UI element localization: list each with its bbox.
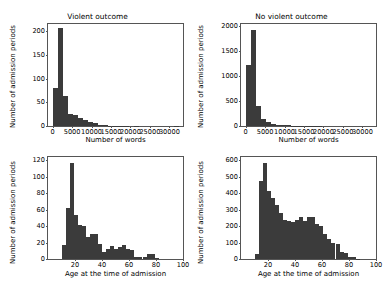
panel-violent-words: Violent outcome Number of admission peri…: [0, 12, 195, 146]
y-tick-mark: [46, 259, 48, 260]
x-tick-label: 25000: [332, 129, 353, 136]
y-tick-mark: [239, 177, 241, 178]
y-tick-mark: [46, 31, 48, 32]
x-tick-label: 20000: [120, 129, 141, 136]
figure-canvas: Violent outcome Number of admission peri…: [0, 0, 389, 292]
x-tick-mark: [349, 259, 350, 261]
y-tick-label: 200: [32, 28, 45, 35]
x-tick-label: 15000: [101, 129, 122, 136]
y-tick-label: 100: [32, 173, 45, 180]
y-tick-mark: [239, 193, 241, 194]
x-tick-label: 0: [244, 129, 248, 136]
x-tick-mark: [129, 259, 130, 261]
x-tick-mark: [75, 259, 76, 261]
y-tick-label: 100: [32, 75, 45, 82]
y-tick-label: 0: [41, 123, 45, 130]
y-tick-label: 300: [225, 206, 238, 213]
y-tick-label: 0: [234, 123, 238, 130]
xlabel-violent-age: Age at the time of admission: [47, 270, 184, 279]
x-tick-mark: [323, 126, 324, 128]
plot-title-nonviolent-words: No violent outcome: [194, 12, 389, 21]
panel-nonviolent-words: No violent outcome Number of admission p…: [194, 12, 389, 146]
x-tick-mark: [376, 259, 377, 261]
x-tick-label: 80: [345, 262, 353, 269]
x-tick-mark: [102, 259, 103, 261]
y-tick-mark: [239, 210, 241, 211]
x-tick-label: 60: [318, 262, 326, 269]
y-tick-label: 60: [37, 206, 45, 213]
x-tick-mark: [265, 126, 266, 128]
y-tick-label: 600: [225, 157, 238, 164]
y-tick-mark: [239, 101, 241, 102]
x-tick-label: 80: [152, 262, 160, 269]
axes-violent-words: 0501001502000500010000150002000025000300…: [47, 23, 184, 127]
plot-title-violent-words: Violent outcome: [0, 12, 195, 21]
x-tick-label: 30000: [159, 129, 180, 136]
x-tick-mark: [246, 126, 247, 128]
y-tick-label: 50: [37, 99, 45, 106]
y-tick-label: 2000: [221, 23, 238, 30]
x-tick-label: 10000: [81, 129, 102, 136]
y-tick-mark: [239, 51, 241, 52]
x-tick-label: 25000: [139, 129, 160, 136]
y-tick-label: 40: [37, 223, 45, 230]
y-tick-mark: [239, 76, 241, 77]
x-tick-label: 0: [51, 129, 55, 136]
bars-nonviolent-age: [241, 157, 376, 259]
x-tick-mark: [304, 126, 305, 128]
panel-nonviolent-age: Number of admission periods 010020030040…: [194, 152, 389, 292]
x-tick-mark: [130, 126, 131, 128]
y-tick-label: 1000: [221, 73, 238, 80]
x-tick-mark: [362, 126, 363, 128]
y-tick-label: 0: [234, 256, 238, 263]
y-tick-mark: [239, 259, 241, 260]
y-tick-mark: [46, 126, 48, 127]
axes-violent-age: 02040608010012020406080100: [47, 156, 184, 260]
y-tick-mark: [46, 160, 48, 161]
x-tick-label: 5000: [257, 129, 274, 136]
x-tick-mark: [150, 126, 151, 128]
y-tick-mark: [239, 160, 241, 161]
xlabel-violent-words: Number of words: [47, 136, 184, 145]
y-tick-label: 0: [41, 256, 45, 263]
y-tick-label: 200: [225, 223, 238, 230]
x-tick-label: 30000: [352, 129, 373, 136]
y-tick-mark: [46, 243, 48, 244]
x-tick-label: 60: [125, 262, 133, 269]
y-tick-label: 20: [37, 239, 45, 246]
y-tick-mark: [239, 26, 241, 27]
y-tick-label: 120: [32, 157, 45, 164]
ylabel-violent-age: Number of admission periods: [9, 161, 17, 264]
y-tick-label: 150: [32, 51, 45, 58]
y-tick-mark: [46, 193, 48, 194]
x-tick-mark: [268, 259, 269, 261]
x-tick-mark: [53, 126, 54, 128]
y-tick-label: 1500: [221, 48, 238, 55]
y-tick-mark: [46, 79, 48, 80]
x-tick-label: 5000: [64, 129, 81, 136]
y-tick-label: 500: [225, 173, 238, 180]
bars-violent-words: [48, 24, 183, 126]
x-tick-mark: [72, 126, 73, 128]
x-tick-mark: [285, 126, 286, 128]
x-tick-mark: [295, 259, 296, 261]
x-tick-label: 100: [177, 262, 190, 269]
x-tick-mark: [169, 126, 170, 128]
y-tick-label: 80: [37, 190, 45, 197]
x-tick-label: 15000: [294, 129, 315, 136]
y-tick-mark: [46, 102, 48, 103]
x-tick-mark: [183, 259, 184, 261]
y-tick-label: 100: [225, 239, 238, 246]
y-tick-mark: [46, 55, 48, 56]
ylabel-violent-words: Number of admission periods: [9, 25, 17, 128]
x-tick-mark: [92, 126, 93, 128]
x-tick-label: 40: [98, 262, 106, 269]
x-tick-label: 100: [370, 262, 383, 269]
xlabel-nonviolent-age: Age at the time of admission: [240, 270, 377, 279]
y-tick-mark: [239, 226, 241, 227]
x-tick-mark: [322, 259, 323, 261]
x-tick-label: 20: [264, 262, 272, 269]
ylabel-nonviolent-words: Number of admission periods: [197, 25, 205, 128]
xlabel-nonviolent-words: Number of words: [240, 136, 377, 145]
bars-nonviolent-words: [241, 24, 376, 126]
